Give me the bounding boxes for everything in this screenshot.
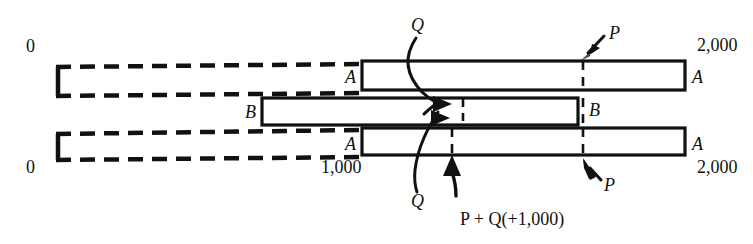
label-p-bottom: P — [604, 176, 615, 194]
label-q-top: Q — [411, 16, 424, 34]
top-ghost-bar — [56, 64, 362, 96]
bottom-ghost-bar — [56, 130, 362, 160]
label-a-bottom-left: A — [345, 135, 356, 153]
bottom-bar-a — [362, 128, 685, 155]
register-shift-diagram: 0 0 2,000 2,000 1,000 A A A A B B Q Q P … — [0, 0, 753, 244]
label-b-left: B — [245, 103, 256, 121]
label-b-right: B — [589, 101, 600, 119]
label-sum-caption: P + Q(+1,000) — [460, 210, 564, 228]
p-bottom-arrow — [583, 158, 601, 180]
diagram-canvas — [0, 0, 753, 244]
label-zero-bottom: 0 — [26, 158, 35, 176]
label-2000-bottom: 2,000 — [697, 158, 738, 176]
p-top-arrow — [580, 36, 604, 61]
label-q-bottom: Q — [411, 192, 424, 210]
middle-bar-b — [262, 98, 578, 125]
label-a-top-right: A — [692, 68, 703, 86]
label-zero-top: 0 — [26, 37, 35, 55]
label-1000: 1,000 — [321, 158, 362, 176]
label-a-bottom-right: A — [692, 135, 703, 153]
pq-up-arrow — [443, 155, 461, 196]
label-a-top-left: A — [345, 68, 356, 86]
label-2000-top: 2,000 — [697, 36, 738, 54]
label-p-top: P — [609, 24, 620, 42]
